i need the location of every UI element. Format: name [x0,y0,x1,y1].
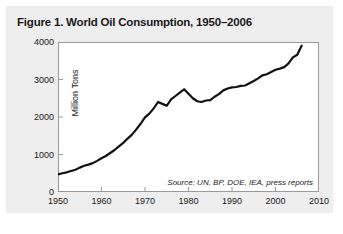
y-tick-label: 2000 [34,112,54,122]
y-axis-title: Million Tons [70,43,80,143]
chart-line-svg [58,42,319,192]
x-tick-label: 1990 [222,196,242,206]
x-tick-label: 1980 [178,196,198,206]
y-tick-label: 3000 [34,75,54,85]
oil-consumption-line [58,46,302,175]
x-tick-label: 1960 [91,196,111,206]
y-tick-label: 1000 [34,150,54,160]
source-note: Source: UN, BP, DOE, IEA, press reports [167,178,313,187]
x-tick-label: 1950 [48,196,68,206]
figure-card: Figure 1. World Oil Consumption, 1950–20… [6,6,333,213]
x-tick-label: 2000 [265,196,285,206]
x-tick-label: 2010 [309,196,329,206]
x-tick-label: 1970 [135,196,155,206]
figure-title: Figure 1. World Oil Consumption, 1950–20… [17,16,252,28]
y-tick-label: 4000 [34,37,54,47]
chart-plot-area: Million Tons 01000200030004000 195019601… [58,42,319,192]
